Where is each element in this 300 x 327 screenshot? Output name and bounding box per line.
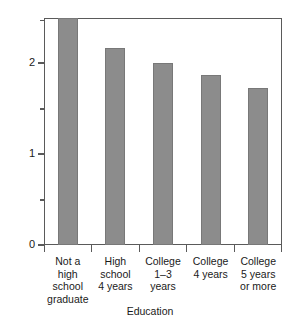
bar-high-school-4-years [105, 48, 125, 245]
y-tick-major-1 [38, 153, 45, 154]
x-tick-2 [139, 245, 140, 252]
y-tick-label-0: 0 [21, 239, 35, 250]
x-tick-5 [281, 245, 282, 252]
x-tick-4 [234, 245, 235, 252]
x-category-label-3: College 4 years [185, 255, 237, 280]
x-category-label-1: High school 4 years [90, 255, 142, 293]
bar-college-1-3-years [153, 63, 173, 245]
bar-not-a-high-school-graduate [58, 18, 78, 245]
x-tick-0 [44, 245, 45, 252]
y-tick-major-2 [38, 62, 45, 63]
y-tick-label-1: 1 [21, 148, 35, 159]
x-tick-1 [91, 245, 92, 252]
x-axis-title: Education [0, 305, 300, 317]
y-tick-minor-2-5 [40, 20, 45, 21]
x-tick-3 [186, 245, 187, 252]
x-category-label-0: Not a high school graduate [42, 255, 94, 305]
bar-college-5-years-or-more [248, 88, 268, 245]
bar-college-4-years [201, 75, 221, 245]
x-category-label-4: College 5 years or more [232, 255, 284, 293]
y-tick-label-2: 2 [21, 57, 35, 68]
x-category-label-2: College 1–3 years [137, 255, 189, 293]
bar-chart: Lifetime births expected per woman 0 1 2… [0, 0, 300, 327]
y-tick-minor-1-5 [40, 108, 45, 109]
y-tick-minor-0-5 [40, 199, 45, 200]
